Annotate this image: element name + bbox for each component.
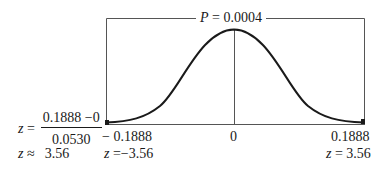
fraction-denominator: 0.0530 xyxy=(52,128,91,148)
p-value-bracket xyxy=(107,19,365,125)
tick-label-right: 0.1888 xyxy=(331,129,370,145)
p-var: P xyxy=(200,10,209,25)
left-tail-marker xyxy=(105,120,109,125)
p-value-text: = 0.0004 xyxy=(209,10,262,25)
z-label-right: z = 3.56 xyxy=(326,146,371,162)
z-right-value: = 3.56 xyxy=(331,146,370,161)
tick-label-center: 0 xyxy=(230,129,237,145)
fraction-numerator: 0.1888 −0 xyxy=(41,110,102,128)
z-label-left: z =−3.56 xyxy=(104,146,153,162)
z-formula-lhs: z = xyxy=(18,121,35,137)
normal-curve-figure: P = 0.0004 − 0.1888 0 0.1888 z =−3.56 z … xyxy=(0,0,381,170)
fraction: 0.1888 −0 0.0530 xyxy=(41,110,102,148)
z-result-value: 3.56 xyxy=(45,146,70,161)
p-value-label: P = 0.0004 xyxy=(196,10,266,26)
tick-label-left: − 0.1888 xyxy=(102,129,152,145)
z-left-value: =−3.56 xyxy=(109,146,153,161)
z-result: z ≈3.56 xyxy=(18,146,69,162)
equals-sign: = xyxy=(23,121,34,136)
right-tail-marker xyxy=(361,119,365,124)
approx-sign: ≈ xyxy=(23,146,34,161)
z-formula: z = 0.1888 −0 0.0530 xyxy=(18,110,102,148)
